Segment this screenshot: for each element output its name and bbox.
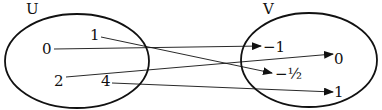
diagram-canvas: U V 0 1 2 4 −1 0 −½ 1 (0, 0, 382, 110)
domain-element-2: 2 (54, 72, 64, 90)
set-v-label: V (262, 0, 275, 18)
domain-element-1: 1 (90, 26, 100, 44)
codomain-element-0: 0 (334, 50, 344, 68)
arrow-4-to-1 (112, 83, 333, 92)
set-u-ellipse (5, 14, 149, 108)
domain-element-4: 4 (101, 72, 111, 90)
set-u-label: U (26, 0, 39, 18)
codomain-element-1: 1 (334, 83, 344, 101)
codomain-element-neg1: −1 (263, 38, 285, 56)
mapping-diagram: U V 0 1 2 4 −1 0 −½ 1 (0, 0, 382, 110)
codomain-element-neg-half: −½ (275, 65, 302, 83)
domain-element-0: 0 (42, 40, 52, 58)
